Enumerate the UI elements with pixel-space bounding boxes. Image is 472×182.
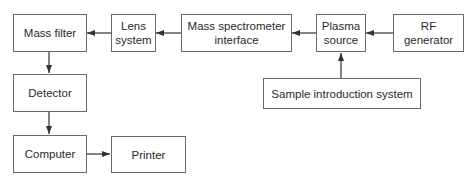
rf-generator-label-line1: RF	[421, 19, 436, 33]
printer-label: Printer	[132, 148, 166, 162]
sample-introduction-label: Sample introduction system	[271, 87, 412, 101]
lens-system-label-line1: Lens	[121, 19, 146, 33]
printer-box: Printer	[111, 136, 186, 173]
mass-filter-label: Mass filter	[24, 26, 76, 40]
plasma-source-label-line1: Plasma	[322, 19, 360, 33]
computer-box: Computer	[13, 135, 87, 173]
plasma-source-box: Plasma source	[316, 14, 366, 52]
computer-label: Computer	[25, 147, 76, 161]
sample-introduction-box: Sample introduction system	[263, 78, 421, 109]
lens-system-box: Lens system	[111, 14, 156, 52]
mass-filter-box: Mass filter	[13, 14, 87, 52]
plasma-source-label-line2: source	[324, 33, 359, 47]
lens-system-label-line2: system	[115, 33, 151, 47]
ms-interface-label-line2: interface	[214, 33, 258, 47]
rf-generator-label-line2: generator	[404, 33, 453, 47]
detector-label: Detector	[28, 86, 71, 100]
rf-generator-box: RF generator	[393, 14, 464, 52]
ms-interface-box: Mass spectrometer interface	[181, 14, 292, 52]
detector-box: Detector	[13, 74, 87, 112]
ms-interface-label-line1: Mass spectrometer	[188, 19, 286, 33]
